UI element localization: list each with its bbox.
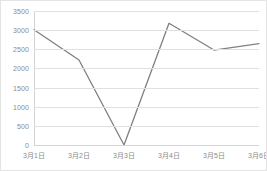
gridline — [34, 126, 259, 127]
x-axis-tick-label: 3月6日 — [248, 150, 267, 160]
gridline — [34, 107, 259, 108]
gridline — [34, 68, 259, 69]
y-axis-tick-label: 3500 — [0, 8, 29, 15]
plot-area — [34, 11, 259, 145]
gridline — [34, 88, 259, 89]
gridline — [34, 30, 259, 31]
x-axis-tick-label: 3月3日 — [113, 150, 135, 160]
line-chart-figure: 05001000150020002500300035003月1日3月2日3月3日… — [0, 0, 267, 171]
y-axis-tick-label: 1500 — [0, 84, 29, 91]
y-axis-tick-label: 500 — [0, 122, 29, 129]
x-axis-tick-label: 3月2日 — [68, 150, 90, 160]
gridline — [34, 145, 259, 146]
y-axis-tick-label: 1000 — [0, 103, 29, 110]
gridline — [34, 49, 259, 50]
x-axis-tick-label: 3月5日 — [203, 150, 225, 160]
y-axis-tick-label: 0 — [0, 142, 29, 149]
x-axis-tick-label: 3月4日 — [158, 150, 180, 160]
gridline — [34, 11, 259, 12]
x-axis-tick-label: 3月1日 — [23, 150, 45, 160]
y-axis-tick-label: 2500 — [0, 46, 29, 53]
y-axis-tick-label: 3000 — [0, 27, 29, 34]
y-axis-tick-label: 2000 — [0, 65, 29, 72]
